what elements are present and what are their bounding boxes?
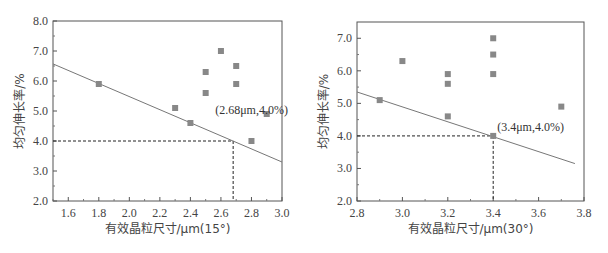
data-point (187, 120, 193, 126)
y-tick-label: 5.0 (337, 96, 352, 110)
y-tick-label: 2.0 (33, 194, 48, 208)
x-tick-label: 3.0 (275, 206, 290, 220)
data-point (445, 71, 451, 77)
y-tick-label: 4.0 (337, 129, 352, 143)
x-tick-label: 3.0 (395, 206, 410, 220)
y-axis-title: 均匀伸长率/% (12, 73, 27, 148)
left-chart-15deg: 1.61.82.02.22.42.62.83.02.03.04.05.06.07… (12, 14, 290, 236)
right-chart-30deg: 2.83.03.23.43.63.82.03.04.05.06.07.0(3.4… (316, 22, 592, 236)
data-point (203, 69, 209, 75)
data-point (558, 104, 564, 110)
data-point (490, 52, 496, 58)
x-tick-label: 3.6 (531, 206, 546, 220)
data-point (218, 48, 224, 54)
data-point (445, 113, 451, 119)
y-axis-title: 均匀伸长率/% (316, 74, 331, 149)
y-tick-label: 3.0 (337, 161, 352, 175)
data-point (490, 35, 496, 41)
x-tick-label: 1.6 (61, 206, 76, 220)
x-tick-label: 2.8 (350, 206, 365, 220)
data-point (233, 81, 239, 87)
y-tick-label: 6.0 (33, 74, 48, 88)
y-tick-label: 7.0 (33, 44, 48, 58)
data-point (377, 97, 383, 103)
plot-frame (357, 22, 584, 201)
y-tick-label: 2.0 (337, 194, 352, 208)
data-point (203, 90, 209, 96)
x-tick-label: 2.6 (213, 206, 228, 220)
x-tick-label: 2.0 (122, 206, 137, 220)
x-tick-label: 2.8 (244, 206, 259, 220)
x-tick-label: 2.2 (152, 206, 167, 220)
data-point (490, 71, 496, 77)
data-point (172, 105, 178, 111)
data-point (490, 133, 496, 139)
x-tick-label: 3.4 (486, 206, 501, 220)
data-point (399, 58, 405, 64)
y-tick-label: 8.0 (33, 14, 48, 28)
x-tick-label: 3.8 (577, 206, 592, 220)
data-point (96, 81, 102, 87)
y-tick-label: 6.0 (337, 64, 352, 78)
data-point (445, 81, 451, 87)
x-tick-label: 1.8 (91, 206, 106, 220)
y-tick-label: 4.0 (33, 134, 48, 148)
data-point (248, 138, 254, 144)
data-point (233, 63, 239, 69)
x-axis-title: 有效晶粒尺寸/μm(30°) (408, 221, 534, 236)
x-axis-title: 有效晶粒尺寸/μm(15°) (105, 221, 231, 236)
x-tick-label: 2.4 (183, 206, 198, 220)
x-tick-label: 3.2 (440, 206, 455, 220)
y-tick-label: 7.0 (337, 31, 352, 45)
y-tick-label: 3.0 (33, 164, 48, 178)
annotation-label: (3.4μm,4.0%) (497, 120, 564, 134)
annotation-label: (2.68μm,4.0%) (215, 103, 288, 117)
y-tick-label: 5.0 (33, 104, 48, 118)
chart-figure: 1.61.82.02.22.42.62.83.02.03.04.05.06.07… (0, 0, 608, 253)
